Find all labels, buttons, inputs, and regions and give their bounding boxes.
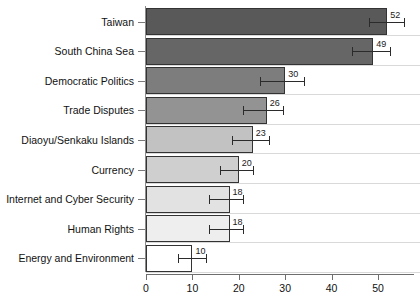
x-axis-tick: [378, 275, 379, 280]
bar-value-label: 20: [242, 159, 252, 168]
bar-value-label: 23: [256, 129, 266, 138]
x-axis-tick: [146, 275, 147, 280]
row-baseline-rule: [146, 272, 420, 273]
error-bar-line: [232, 140, 269, 141]
y-axis-tick: [138, 22, 145, 23]
error-bar-cap-high: [390, 47, 391, 56]
bar-row: [146, 156, 420, 183]
row-baseline-rule: [146, 124, 420, 125]
bar-row: [146, 126, 420, 153]
error-bar-line: [352, 51, 389, 52]
y-axis-tick: [138, 51, 145, 52]
error-bar-cap-low: [209, 225, 210, 234]
bar-row: [146, 215, 420, 242]
bar-row: [146, 186, 420, 213]
y-axis-label: South China Sea: [55, 45, 134, 57]
horizontal-bar-chart: TaiwanSouth China SeaDemocratic Politics…: [0, 0, 420, 304]
bar-value-label: 52: [390, 11, 400, 20]
y-axis-label: Energy and Environment: [18, 252, 134, 264]
x-axis-tick: [285, 275, 286, 280]
x-axis-label: 30: [279, 282, 291, 294]
error-bar-cap-high: [243, 225, 244, 234]
error-bar-line: [243, 110, 282, 111]
error-bar-cap-low: [369, 18, 370, 27]
error-bar-line: [369, 22, 404, 23]
error-bar-cap-low: [232, 136, 233, 145]
bar-value-label: 30: [288, 70, 298, 79]
row-baseline-rule: [146, 153, 420, 154]
x-axis-label: 0: [143, 282, 149, 294]
bar-value-label: 49: [376, 40, 386, 49]
error-bar-line: [209, 229, 244, 230]
row-baseline-rule: [146, 65, 420, 66]
x-axis-tick: [332, 275, 333, 280]
x-axis-line: [146, 274, 414, 275]
error-bar-cap-high: [283, 106, 284, 115]
error-bar-cap-high: [269, 136, 270, 145]
row-baseline-rule: [146, 213, 420, 214]
error-bar-line: [260, 81, 304, 82]
x-axis-label: 40: [326, 282, 338, 294]
error-bar-cap-high: [404, 18, 405, 27]
y-axis-label: Taiwan: [101, 16, 134, 28]
y-axis-label: Trade Disputes: [63, 104, 134, 116]
x-axis-label: 20: [233, 282, 245, 294]
y-axis-label: Currency: [91, 164, 134, 176]
error-bar-cap-high: [253, 166, 254, 175]
error-bar-cap-high: [206, 254, 207, 263]
error-bar-cap-low: [209, 195, 210, 204]
x-axis-label: 10: [187, 282, 199, 294]
error-bar-line: [220, 170, 252, 171]
x-axis-tick: [239, 275, 240, 280]
error-bar-cap-high: [243, 195, 244, 204]
x-axis-label: 50: [372, 282, 384, 294]
bar-value-label: 18: [233, 188, 243, 197]
y-axis-label: Diaoyu/Senkaku Islands: [21, 134, 134, 146]
bar: [146, 38, 373, 65]
error-bar-cap-low: [352, 47, 353, 56]
row-baseline-rule: [146, 94, 420, 95]
error-bar-line: [209, 199, 244, 200]
y-axis-label: Human Rights: [67, 223, 134, 235]
y-axis-tick: [138, 110, 145, 111]
y-axis-tick: [138, 170, 145, 171]
y-axis-tick: [138, 258, 145, 259]
error-bar-line: [178, 258, 206, 259]
error-bar-cap-high: [304, 77, 305, 86]
bar-value-label: 18: [233, 218, 243, 227]
row-baseline-rule: [146, 183, 420, 184]
y-axis-tick: [138, 140, 145, 141]
y-axis-tick: [138, 81, 145, 82]
y-axis-tick: [138, 199, 145, 200]
row-baseline-rule: [146, 242, 420, 243]
y-axis-label: Internet and Cyber Security: [6, 193, 134, 205]
error-bar-cap-low: [178, 254, 179, 263]
bar-value-label: 10: [195, 247, 205, 256]
y-axis-label: Democratic Politics: [45, 75, 134, 87]
error-bar-cap-low: [243, 106, 244, 115]
row-baseline-rule: [146, 35, 420, 36]
bar-value-label: 26: [270, 99, 280, 108]
x-axis-tick: [192, 275, 193, 280]
error-bar-cap-low: [260, 77, 261, 86]
bar: [146, 8, 387, 35]
y-axis-tick: [138, 229, 145, 230]
error-bar-cap-low: [220, 166, 221, 175]
